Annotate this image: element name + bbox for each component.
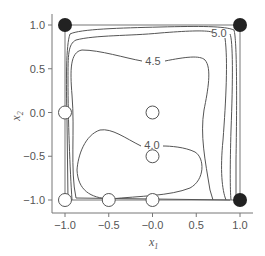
- y-tick-label: −0.5: [23, 150, 45, 162]
- axes: 1.0 0.5 0.0 −0.5 −1.0 −1.0 −0.5 −0.0 0.5…: [9, 14, 253, 251]
- contour-chart: 1.0 0.5 0.0 −0.5 −1.0 −1.0 −0.5 −0.0 0.5…: [0, 0, 265, 256]
- filled-point: [233, 18, 247, 32]
- y-tick-label: 1.0: [30, 19, 45, 31]
- x-tick-label: −0.5: [98, 219, 120, 231]
- x-axis-title: x1: [148, 235, 158, 251]
- contour-label-4-5: 4.5: [145, 55, 160, 67]
- x-tick-label: −0.0: [142, 219, 164, 231]
- filled-point: [233, 193, 247, 207]
- open-point: [59, 106, 72, 119]
- contour-4-5: [71, 50, 230, 200]
- filled-point: [58, 18, 72, 32]
- open-point: [102, 194, 115, 207]
- contour-4-0: [77, 130, 202, 199]
- contour-label-4-0: 4.0: [144, 139, 159, 151]
- y-tick-label: 0.5: [30, 63, 45, 75]
- open-point: [146, 194, 159, 207]
- contour-label-5-0: 5.0: [211, 27, 226, 39]
- design-points: [58, 18, 247, 207]
- y-tick-label: −1.0: [23, 194, 45, 206]
- x-tick-label: 1.0: [232, 219, 247, 231]
- open-point: [59, 194, 72, 207]
- open-point: [146, 106, 159, 119]
- x-tick-label: 0.5: [189, 219, 204, 231]
- y-axis-title: x2: [9, 111, 25, 121]
- y-tick-label: 0.0: [30, 107, 45, 119]
- x-tick-label: −1.0: [54, 219, 76, 231]
- contour-mid: [222, 38, 227, 200]
- open-point: [146, 150, 159, 163]
